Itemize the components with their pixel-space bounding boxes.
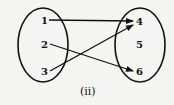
domain-element-1: 1 <box>41 15 48 26</box>
domain-element-2: 2 <box>41 39 48 50</box>
codomain-element-5: 5 <box>136 39 143 50</box>
codomain-element-6: 6 <box>136 66 143 77</box>
domain-element-3: 3 <box>41 66 48 77</box>
codomain-element-4: 4 <box>136 16 143 27</box>
diagram-caption: (ii) <box>80 85 96 98</box>
mapping-diagram: 1 2 3 4 5 6 (ii) <box>0 0 174 105</box>
